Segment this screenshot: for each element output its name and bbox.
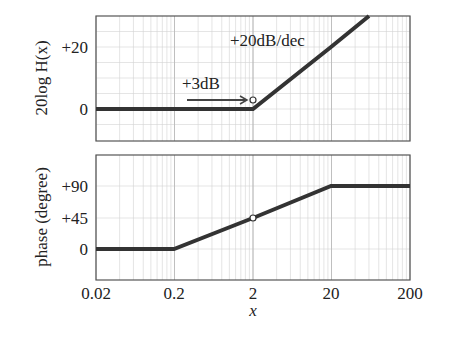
ytick-phase-45: +45 bbox=[61, 209, 88, 228]
phase-panel: +90 +45 0 0.02 0.2 2 20 200 x phase (deg… bbox=[32, 155, 423, 320]
phase-ylabel: phase (degree) bbox=[32, 167, 51, 267]
bode-figure: +3dB +20dB/dec +20 0 20log H(x) +90 +45 … bbox=[0, 0, 451, 345]
xtick-20: 20 bbox=[323, 284, 340, 303]
plus3db-marker bbox=[250, 97, 256, 103]
xtick-0.2: 0.2 bbox=[163, 284, 184, 303]
phase-marker bbox=[250, 215, 256, 221]
magnitude-panel: +3dB +20dB/dec +20 0 20log H(x) bbox=[32, 16, 410, 141]
ytick-top-20: +20 bbox=[61, 38, 88, 57]
ytick-phase-0: 0 bbox=[80, 240, 89, 259]
slope-label: +20dB/dec bbox=[230, 31, 305, 50]
phase-xlabel: x bbox=[248, 301, 257, 320]
xtick-200: 200 bbox=[397, 284, 423, 303]
plus3db-label: +3dB bbox=[182, 74, 220, 93]
magnitude-ylabel: 20log H(x) bbox=[32, 40, 51, 115]
ytick-top-0: 0 bbox=[80, 100, 89, 119]
xtick-0.02: 0.02 bbox=[81, 284, 111, 303]
ytick-phase-90: +90 bbox=[61, 177, 88, 196]
